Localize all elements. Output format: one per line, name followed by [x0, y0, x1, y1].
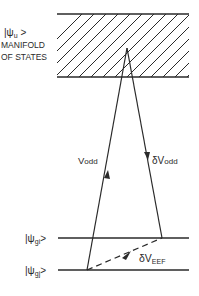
- svg-text:|ψu >: |ψu >: [4, 27, 26, 39]
- delta-v-odd-label: δVodd: [152, 155, 178, 166]
- level-gj-ket: |ψ: [25, 265, 35, 276]
- energy-level-diagram: |ψu > MANIFOLD OF STATES Vodd δVodd δVEE…: [0, 0, 199, 296]
- delta-v-eef-arrowhead-icon: [122, 251, 131, 260]
- level-gi-close: >: [40, 233, 46, 244]
- level-gj-label: |ψgj>: [25, 265, 46, 278]
- v-odd-label: Vodd: [78, 155, 98, 166]
- delta-v-odd-sub: odd: [164, 157, 177, 166]
- delta-v-eef-label: δVEEF: [139, 252, 165, 265]
- delta-v-eef-sub: EEF: [152, 258, 166, 265]
- manifold-line3: OF STATES: [1, 52, 47, 62]
- v-odd-sub: odd: [84, 157, 97, 166]
- manifold-ket-close: >: [18, 27, 27, 38]
- manifold-ket: |ψ: [4, 27, 14, 38]
- manifold-line2: MANIFOLD: [1, 40, 45, 50]
- level-gi-ket: |ψ: [25, 233, 35, 244]
- manifold-label: |ψu > MANIFOLD OF STATES: [1, 27, 47, 62]
- delta-v-odd-symbol: δV: [152, 155, 165, 166]
- delta-v-eef-symbol: δV: [139, 252, 152, 264]
- level-gi-label: |ψgi>: [25, 233, 46, 246]
- level-gj-close: >: [40, 265, 46, 276]
